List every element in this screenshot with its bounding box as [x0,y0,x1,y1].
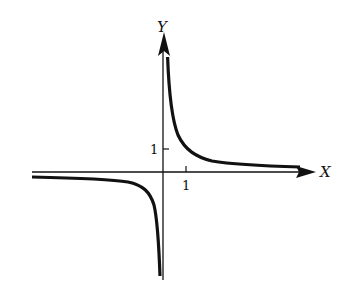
y-axis-label: Y [157,18,169,36]
curve-branch-negative [32,177,160,276]
x-axis-label: X [319,163,332,181]
hyperbola-plot: Y X 1 1 [0,0,351,299]
curve-branch-positive [168,57,300,167]
y-tick-label: 1 [150,142,158,157]
x-tick-label: 1 [182,178,190,193]
